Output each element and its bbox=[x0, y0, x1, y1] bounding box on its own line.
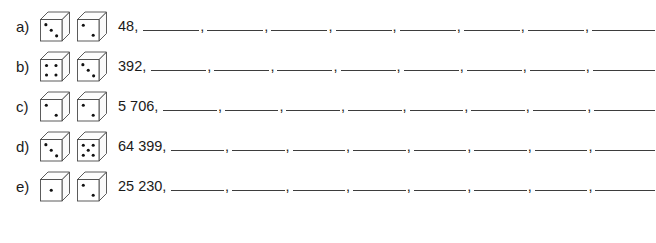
answer-blank[interactable] bbox=[464, 19, 520, 31]
sequence-separator: , bbox=[393, 19, 400, 34]
die-icon bbox=[75, 129, 109, 163]
answer-blank-group: , bbox=[207, 19, 271, 34]
sequence-start-number: 25 230, bbox=[118, 179, 166, 194]
answer-blank[interactable] bbox=[414, 139, 467, 151]
answer-blank[interactable] bbox=[348, 99, 402, 111]
sequence-separator: , bbox=[528, 179, 535, 194]
answer-blank[interactable] bbox=[143, 19, 199, 31]
answer-blank[interactable] bbox=[232, 179, 285, 191]
answer-blank[interactable] bbox=[286, 99, 340, 111]
answer-blank[interactable] bbox=[225, 99, 279, 111]
answer-blank[interactable] bbox=[353, 179, 406, 191]
answer-blank-group: , bbox=[404, 59, 467, 74]
sequence-start-number: 64 399, bbox=[118, 139, 166, 154]
answer-blank[interactable] bbox=[471, 99, 525, 111]
answer-blanks: ,,,,,,, bbox=[138, 19, 656, 34]
answer-blank[interactable] bbox=[594, 99, 655, 111]
sequence-start-number: 392, bbox=[118, 59, 146, 74]
answer-blank[interactable] bbox=[293, 139, 346, 151]
answer-blank[interactable] bbox=[277, 59, 332, 71]
answer-blank[interactable] bbox=[467, 59, 522, 71]
answer-blank[interactable] bbox=[593, 59, 655, 71]
die-front-face bbox=[78, 180, 100, 202]
answer-blank[interactable] bbox=[404, 59, 459, 71]
answer-blank[interactable] bbox=[595, 139, 655, 151]
sequence-separator: , bbox=[526, 99, 533, 114]
answer-blank[interactable] bbox=[336, 19, 392, 31]
answer-blank-group: , bbox=[471, 99, 533, 114]
answer-blank-group: , bbox=[467, 59, 530, 74]
answer-blank-group: , bbox=[474, 179, 535, 194]
answer-blank[interactable] bbox=[592, 19, 655, 31]
die-pip bbox=[82, 154, 85, 157]
sequence-start-number: 48, bbox=[118, 19, 138, 34]
answer-blank-group: , bbox=[533, 99, 595, 114]
die-front-face bbox=[78, 20, 100, 42]
die-front-face bbox=[41, 100, 63, 122]
die-pip bbox=[54, 73, 57, 76]
answer-blank[interactable] bbox=[414, 179, 467, 191]
answer-blank-group bbox=[593, 59, 656, 71]
die-pip bbox=[45, 104, 48, 107]
answer-blank-group bbox=[595, 179, 656, 191]
answer-blank[interactable] bbox=[163, 99, 217, 111]
answer-blank[interactable] bbox=[595, 179, 655, 191]
answer-blank[interactable] bbox=[293, 179, 346, 191]
sequence-separator: , bbox=[346, 179, 353, 194]
answer-blank-group: , bbox=[286, 99, 348, 114]
answer-blank[interactable] bbox=[400, 19, 456, 31]
die-pip bbox=[87, 69, 90, 72]
answer-blank-group: , bbox=[530, 59, 593, 74]
sequence-separator: , bbox=[218, 99, 225, 114]
answer-blank[interactable] bbox=[151, 59, 206, 71]
dice-pair bbox=[38, 129, 109, 163]
die-pip bbox=[92, 154, 95, 157]
answer-blank[interactable] bbox=[171, 179, 224, 191]
row-label: a) bbox=[16, 18, 38, 35]
answer-blank[interactable] bbox=[530, 59, 585, 71]
sequence-separator: , bbox=[588, 179, 595, 194]
answer-blank-group bbox=[594, 99, 656, 111]
answer-blank[interactable] bbox=[341, 59, 396, 71]
answer-blank[interactable] bbox=[533, 99, 587, 111]
answer-blank-group: , bbox=[410, 99, 472, 114]
answer-blank[interactable] bbox=[271, 19, 327, 31]
answer-blank[interactable] bbox=[474, 179, 527, 191]
answer-blank-group: , bbox=[353, 139, 414, 154]
answer-blank[interactable] bbox=[232, 139, 285, 151]
die-pip bbox=[44, 23, 47, 26]
answer-blank[interactable] bbox=[353, 139, 406, 151]
answer-blank-group: , bbox=[535, 179, 596, 194]
answer-blank[interactable] bbox=[207, 19, 263, 31]
answer-blank[interactable] bbox=[535, 139, 588, 151]
sequence-separator: , bbox=[333, 59, 340, 74]
die-pip bbox=[92, 194, 95, 197]
answer-blank[interactable] bbox=[214, 59, 269, 71]
die-pip bbox=[92, 144, 95, 147]
answer-blank[interactable] bbox=[535, 179, 588, 191]
row-label: d) bbox=[16, 138, 38, 155]
die-pip bbox=[54, 64, 57, 67]
number-sequence: 48,,,,,,,, bbox=[118, 19, 656, 34]
sequence-start-number: 5 706, bbox=[118, 99, 158, 114]
answer-blank[interactable] bbox=[171, 139, 224, 151]
sequence-separator: , bbox=[585, 19, 592, 34]
answer-blank-group: , bbox=[151, 59, 214, 74]
die-pip bbox=[82, 144, 85, 147]
answer-blank-group: , bbox=[341, 59, 404, 74]
answer-blank[interactable] bbox=[474, 139, 527, 151]
sequence-separator: , bbox=[457, 19, 464, 34]
answer-blanks: ,,,,,,, bbox=[158, 99, 656, 114]
answer-blanks: ,,,,,,, bbox=[146, 59, 656, 74]
answer-blank-group: , bbox=[225, 99, 287, 114]
answer-blank-group: , bbox=[535, 139, 596, 154]
sequence-separator: , bbox=[467, 179, 474, 194]
answer-blank-group: , bbox=[163, 99, 225, 114]
answer-blank[interactable] bbox=[528, 19, 584, 31]
sequence-separator: , bbox=[407, 139, 414, 154]
answer-blank-group: , bbox=[271, 19, 335, 34]
die-pip bbox=[55, 34, 58, 37]
answer-blank-group: , bbox=[353, 179, 414, 194]
sequence-separator: , bbox=[407, 179, 414, 194]
answer-blank[interactable] bbox=[410, 99, 464, 111]
